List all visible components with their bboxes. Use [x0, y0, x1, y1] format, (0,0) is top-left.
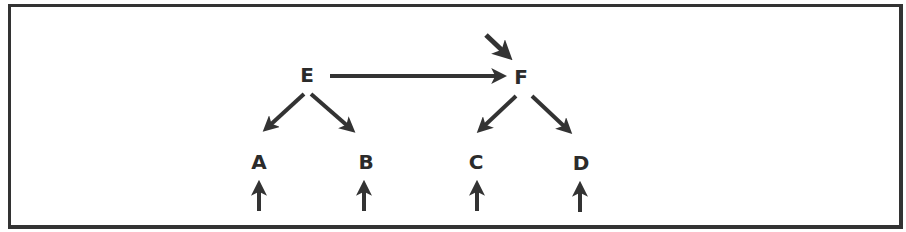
node-c: C — [469, 152, 484, 172]
edge-incoming-f — [486, 35, 506, 54]
edge-f-to-d — [532, 96, 567, 129]
edge-e-to-a — [268, 94, 304, 127]
node-f: F — [514, 67, 528, 87]
node-b: B — [358, 152, 373, 172]
edge-f-to-c — [482, 96, 516, 128]
edge-e-to-b — [311, 94, 350, 128]
node-a: A — [251, 152, 266, 172]
diagram-edges — [0, 0, 906, 232]
node-d: D — [573, 153, 590, 173]
node-e: E — [300, 65, 314, 85]
